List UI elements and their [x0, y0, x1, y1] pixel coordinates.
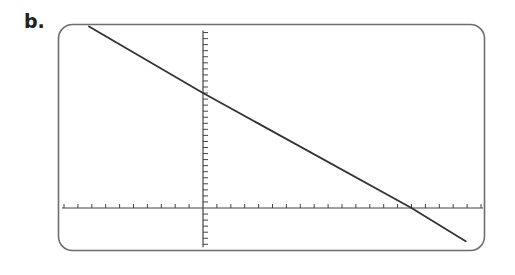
window-frame [59, 25, 485, 251]
graphing-calculator-window [0, 0, 515, 275]
